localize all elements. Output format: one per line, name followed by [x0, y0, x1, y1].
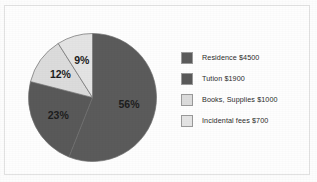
- legend-item: Incidental fees $700: [181, 110, 305, 131]
- pie-slice-label: 56%: [118, 98, 140, 110]
- pie-chart-figure: 56%23%12%9% Residence $4500Tution $1900B…: [0, 0, 317, 182]
- pie-svg: 56%23%12%9%: [28, 33, 157, 162]
- legend-item: Books, Supplies $1000: [181, 89, 305, 110]
- legend-label: Books, Supplies $1000: [202, 95, 278, 104]
- legend-label: Residence $4500: [202, 53, 259, 62]
- pie-slice-label: 23%: [48, 109, 70, 121]
- pie-slice-label: 12%: [50, 68, 72, 80]
- legend-swatch: [181, 115, 193, 127]
- legend-label: Tution $1900: [202, 74, 245, 83]
- legend-item: Residence $4500: [181, 47, 305, 68]
- pie-slice-label: 9%: [74, 54, 90, 66]
- legend-item: Tution $1900: [181, 68, 305, 89]
- chart-legend: Residence $4500Tution $1900Books, Suppli…: [181, 47, 305, 131]
- pie-chart: 56%23%12%9%: [28, 33, 157, 162]
- legend-swatch: [181, 94, 193, 106]
- legend-swatch: [181, 73, 193, 85]
- legend-label: Incidental fees $700: [202, 116, 268, 125]
- legend-swatch: [181, 52, 193, 64]
